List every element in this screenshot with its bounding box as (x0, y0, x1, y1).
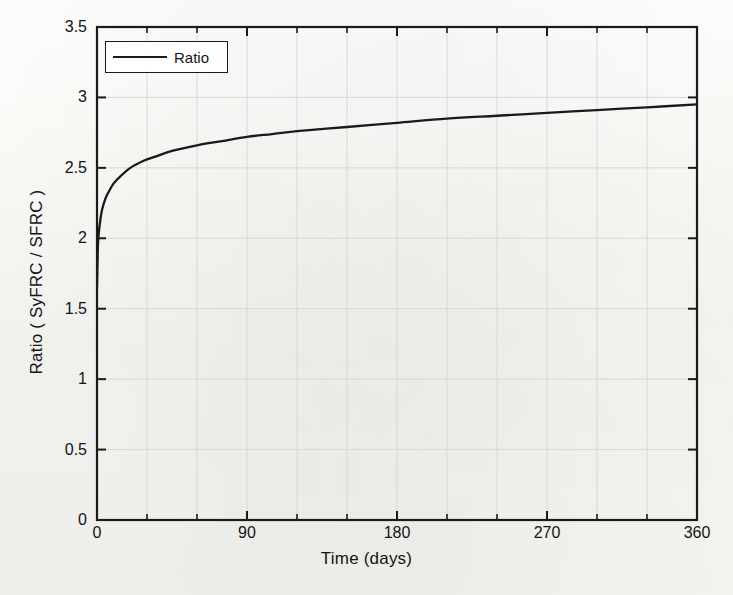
x-axis-title: Time (days) (0, 549, 733, 569)
y-tick-label: 0.5 (40, 441, 87, 459)
y-tick-label: 2.5 (40, 159, 87, 177)
plot-canvas (0, 0, 733, 595)
x-tick-label: 180 (384, 524, 411, 542)
ratio-vs-time-chart: Ratio Time (days) Ratio ( SyFRC / SFRC )… (0, 0, 733, 595)
x-tick-label: 270 (534, 524, 561, 542)
gridlines (97, 27, 697, 520)
x-tick-label: 360 (684, 524, 711, 542)
y-tick-label: 0 (40, 511, 87, 529)
y-tick-label: 2 (40, 229, 87, 247)
y-tick-label: 1.5 (40, 300, 87, 318)
legend-label-ratio: Ratio (174, 50, 209, 65)
x-tick-label: 0 (93, 524, 102, 542)
x-tick-label: 90 (238, 524, 256, 542)
chart-legend: Ratio (105, 41, 228, 73)
legend-line-swatch (113, 56, 167, 58)
y-tick-label: 3.5 (40, 18, 87, 36)
y-tick-label: 1 (40, 370, 87, 388)
y-tick-label: 3 (40, 88, 87, 106)
